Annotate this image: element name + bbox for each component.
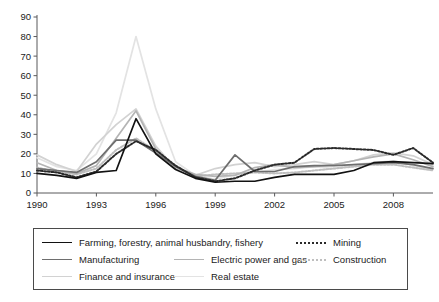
legend-label: Mining [333,237,361,248]
series-line-real-estate [37,37,433,180]
legend-swatch-line-icon [42,259,72,260]
x-tick-label: 1993 [86,199,107,210]
legend-entry[interactable]: Electric power and gas [174,254,307,265]
legend-entry[interactable]: Finance and insurance [42,271,175,282]
chart-legend: Farming, forestry, animal husbandry, fis… [33,228,408,290]
legend-swatch-line-icon [296,259,326,261]
y-tick-label: 20 [20,148,31,159]
y-tick-label: 0 [26,187,31,198]
legend-label: Construction [333,254,386,265]
plot-area: 0102030405060708090199019931996199920022… [0,0,439,215]
legend-label: Manufacturing [79,254,139,265]
legend-row: Finance and insuranceReal estate [34,268,407,285]
y-tick-label: 60 [20,70,31,81]
legend-row: ManufacturingElectric power and gasConst… [34,251,407,268]
x-tick-label: 2005 [323,199,344,210]
y-tick-label: 50 [20,90,31,101]
x-tick-label: 2002 [264,199,285,210]
legend-entry[interactable]: Farming, forestry, animal husbandry, fis… [42,237,263,248]
y-tick-label: 70 [20,51,31,62]
legend-entry[interactable]: Real estate [174,271,259,282]
x-tick-label: 1996 [145,199,166,210]
legend-swatch-line-icon [296,242,326,244]
legend-entry[interactable]: Manufacturing [42,254,139,265]
legend-entry[interactable]: Construction [296,254,386,265]
y-tick-label: 30 [20,129,31,140]
legend-swatch-line-icon [42,242,72,243]
legend-swatch-line-icon [42,276,72,277]
legend-label: Finance and insurance [79,271,175,282]
legend-row: Farming, forestry, animal husbandry, fis… [34,234,407,251]
y-tick-label: 10 [20,168,31,179]
y-tick-label: 80 [20,31,31,42]
legend-label: Electric power and gas [211,254,307,265]
x-tick-label: 1999 [205,199,226,210]
line-chart-svg: 0102030405060708090199019931996199920022… [0,0,439,215]
x-tick-label: 1990 [26,199,47,210]
legend-swatch-line-icon [174,259,204,260]
y-tick-label: 40 [20,109,31,120]
legend-swatch-line-icon [174,276,204,277]
y-tick-label: 90 [20,11,31,22]
legend-label: Real estate [211,271,259,282]
chart-figure: 0102030405060708090199019931996199920022… [0,0,439,302]
legend-label: Farming, forestry, animal husbandry, fis… [79,237,263,248]
x-tick-label: 2008 [383,199,404,210]
legend-entry[interactable]: Mining [296,237,361,248]
